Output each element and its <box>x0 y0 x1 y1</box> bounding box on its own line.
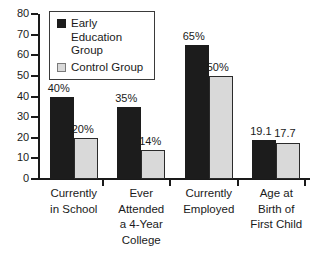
y-axis-tick-label: 30 <box>0 111 29 122</box>
y-axis-tick <box>31 157 38 159</box>
legend-item-label: Control Group <box>71 61 143 75</box>
light-square-icon <box>57 63 66 72</box>
y-axis-line <box>38 14 40 179</box>
y-axis-tick <box>31 75 38 77</box>
bar-value-label: 19.1 <box>250 126 271 137</box>
y-axis-tick-label: 50 <box>0 70 29 81</box>
x-axis-category-label: EverAttendeda 4-YearCollege <box>108 186 176 248</box>
y-axis-tick <box>31 178 38 180</box>
y-axis-tick <box>31 96 38 98</box>
y-axis-tick <box>31 54 38 56</box>
bar <box>276 143 300 180</box>
x-axis-category-label: Currentlyin School <box>40 186 108 217</box>
y-axis-tick-label: 20 <box>0 132 29 143</box>
bar-chart: 01020304050607080 40%20%35%14%65%50%19.1… <box>0 0 321 254</box>
bar-value-label: 17.7 <box>274 128 295 139</box>
y-axis-tick <box>31 137 38 139</box>
dark-square-icon <box>57 19 66 28</box>
bar-value-label: 14% <box>139 136 161 147</box>
bar-value-label: 35% <box>115 93 137 104</box>
chart-legend: Early Education Group Control Group <box>49 11 155 80</box>
x-axis-category-label: CurrentlyEmployed <box>175 186 243 217</box>
y-axis-tick-label: 60 <box>0 49 29 60</box>
bar-value-label: 65% <box>183 31 205 42</box>
y-axis-tick-label: 40 <box>0 91 29 102</box>
x-axis-category-label: Age atBirth ofFirst Child <box>243 186 311 233</box>
bar-value-label: 50% <box>207 62 229 73</box>
bar <box>209 76 233 179</box>
y-axis-tick-label: 10 <box>0 152 29 163</box>
y-axis-tick <box>31 34 38 36</box>
bar <box>50 97 74 180</box>
y-axis-tick <box>31 13 38 15</box>
bar <box>141 150 165 179</box>
bar <box>117 107 141 179</box>
y-axis-tick <box>31 116 38 118</box>
bar <box>74 138 98 179</box>
bar-value-label: 20% <box>72 124 94 135</box>
legend-item-label: Early Education Group <box>71 17 148 58</box>
y-axis-tick-label: 80 <box>0 8 29 19</box>
y-axis-tick-label: 70 <box>0 29 29 40</box>
legend-item-control-group: Control Group <box>57 61 148 75</box>
legend-item-early-education-group: Early Education Group <box>57 17 148 58</box>
bar <box>185 45 209 179</box>
bar-value-label: 40% <box>48 83 70 94</box>
y-axis-tick-label: 0 <box>0 173 29 184</box>
bar <box>252 140 276 179</box>
